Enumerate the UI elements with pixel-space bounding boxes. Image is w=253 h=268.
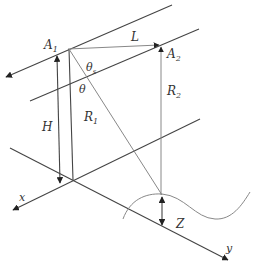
L-arrow xyxy=(68,45,159,49)
label-A2: A2 xyxy=(166,47,181,63)
terrain-curve xyxy=(123,192,250,219)
label-L: L xyxy=(130,30,139,44)
H-arrow xyxy=(57,56,60,183)
label-y: y xyxy=(225,242,233,255)
diagram-canvas: A1 L A2 θs θ R1 R2 H Z x y xyxy=(0,0,253,268)
label-theta-s: θs xyxy=(86,61,97,76)
label-theta: θ xyxy=(79,83,86,96)
label-Z: Z xyxy=(175,217,185,231)
R1-line xyxy=(69,49,162,195)
y-axis xyxy=(10,148,228,260)
label-A1: A1 xyxy=(43,38,58,54)
label-H: H xyxy=(41,120,53,134)
label-R2: R2 xyxy=(166,84,181,100)
label-R1: R1 xyxy=(83,110,98,126)
A1-vertical-line xyxy=(69,49,73,180)
label-x: x xyxy=(19,191,26,204)
